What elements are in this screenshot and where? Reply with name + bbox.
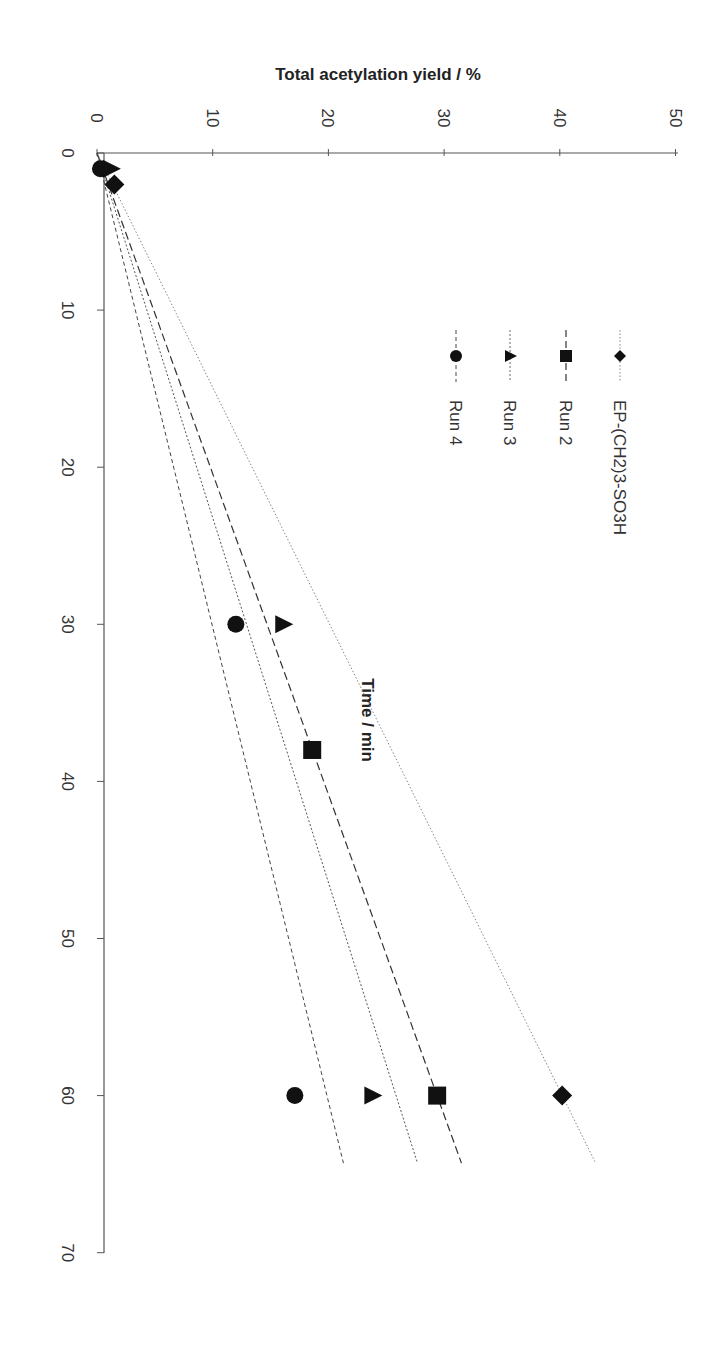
legend-item-ep: EP-(CH2)3-SO3H [610, 330, 629, 535]
legend-item-run2: Run 2 [556, 330, 575, 445]
yield-tick-label: 30 [434, 109, 453, 128]
trendline [97, 153, 461, 1163]
legend-label-ep: EP-(CH2)3-SO3H [610, 400, 629, 535]
circle-marker [227, 616, 244, 633]
trendlines [97, 153, 596, 1163]
yield-tick-label: 40 [550, 109, 569, 128]
time-tick-label: 30 [58, 615, 77, 634]
square-marker [303, 741, 321, 759]
circle-icon [450, 350, 462, 362]
legend: EP-(CH2)3-SO3H Run 2 Run 3 Run 4 [446, 330, 629, 535]
yield-tick-label: 20 [318, 109, 337, 128]
time-tick-label: 0 [58, 148, 77, 157]
triangle-marker [364, 1087, 382, 1105]
legend-item-run3: Run 3 [500, 330, 519, 445]
diamond-icon [614, 350, 626, 362]
legend-item-run4: Run 4 [446, 330, 465, 445]
time-axis: 010203040506070 Time / min [58, 148, 377, 1262]
triangle-icon [505, 350, 517, 362]
time-tick-label: 10 [58, 301, 77, 320]
square-icon [560, 350, 572, 362]
legend-label-run2: Run 2 [556, 400, 575, 445]
yield-tick-label: 50 [666, 109, 685, 128]
diamond-marker [552, 1086, 572, 1106]
time-tick-label: 50 [58, 929, 77, 948]
time-tick-label: 20 [58, 458, 77, 477]
triangle-marker [103, 160, 121, 178]
legend-label-run3: Run 3 [500, 400, 519, 445]
time-tick-label: 70 [58, 1243, 77, 1262]
yield-axis-title: Total acetylation yield / % [275, 65, 481, 84]
triangle-marker [275, 615, 293, 633]
chart-canvas: 01020304050 Total acetylation yield / % … [0, 0, 717, 1358]
time-tick-label: 60 [58, 1086, 77, 1105]
diamond-marker [104, 174, 124, 194]
trendline [97, 153, 417, 1163]
legend-label-run4: Run 4 [446, 400, 465, 445]
circle-marker [286, 1087, 303, 1104]
trendline [97, 153, 343, 1163]
yield-axis: 01020304050 Total acetylation yield / % [87, 65, 685, 156]
yield-tick-label: 10 [203, 109, 222, 128]
time-axis-title: Time / min [358, 678, 377, 762]
square-marker [428, 1087, 446, 1105]
data-markers [92, 160, 572, 1106]
time-tick-label: 40 [58, 772, 77, 791]
trendline [97, 153, 596, 1163]
yield-tick-label: 0 [87, 113, 106, 122]
